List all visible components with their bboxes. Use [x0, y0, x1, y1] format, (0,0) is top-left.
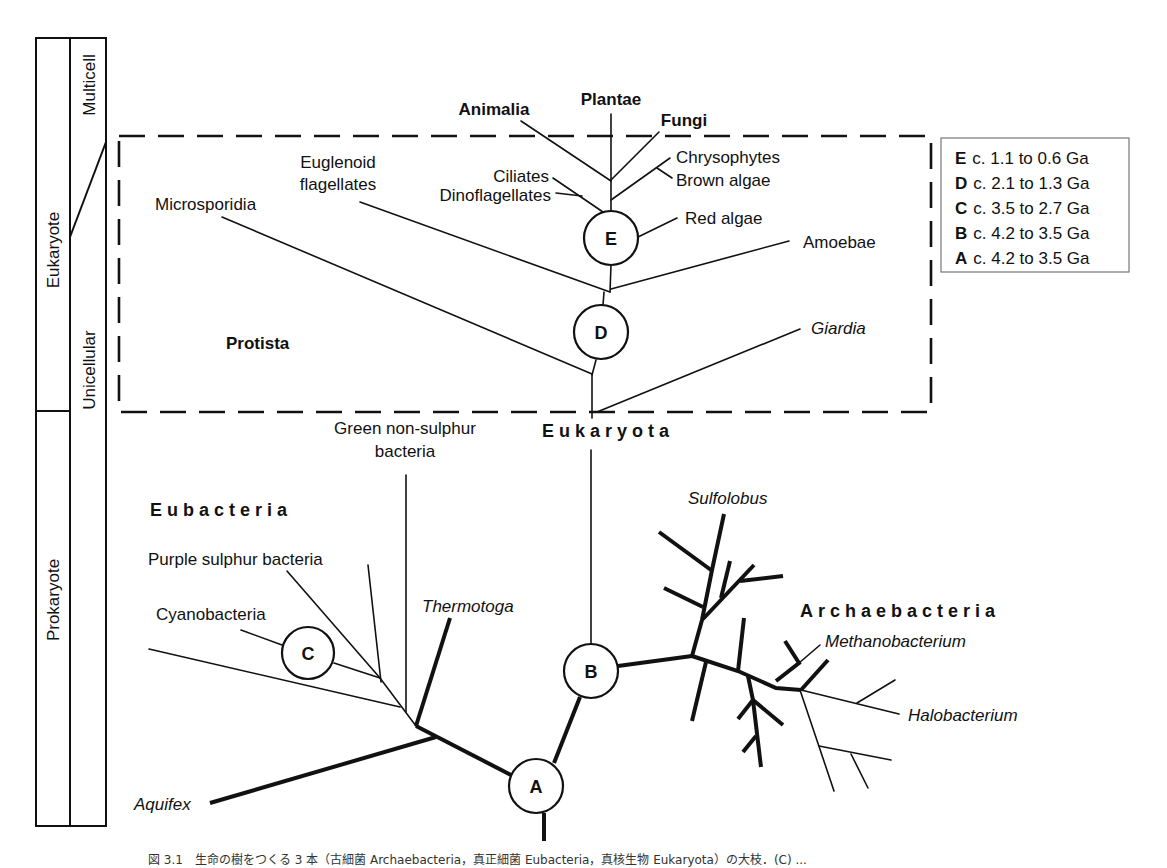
legend-item-e: Ec. 1.1 to 0.6 Ga	[955, 149, 1089, 168]
label-purple-sulphur: Purple sulphur bacteria	[148, 550, 323, 569]
timescale-column: Eukaryote Prokaryote Multicell Unicellul…	[36, 38, 106, 826]
node-b-label: B	[585, 662, 598, 682]
node-a-label: A	[530, 777, 543, 797]
label-red-algae: Red algae	[685, 209, 763, 228]
label-cyanobacteria: Cyanobacteria	[156, 605, 266, 624]
node-e: E	[584, 211, 638, 265]
label-aquifex: Aquifex	[133, 795, 191, 814]
legend-item-a: Ac. 4.2 to 3.5 Ga	[955, 249, 1090, 268]
label-animalia: Animalia	[459, 100, 530, 119]
label-fungi: Fungi	[661, 111, 707, 130]
label-chrysophytes: Chrysophytes	[676, 148, 780, 167]
label-archaebacteria: Archaebacteria	[800, 601, 1000, 621]
label-microsporidia: Microsporidia	[155, 195, 257, 214]
label-euglenoid-line1: Euglenoid	[300, 153, 376, 172]
node-e-label: E	[605, 229, 617, 249]
node-a: A	[509, 759, 563, 813]
label-protista: Protista	[226, 334, 290, 353]
label-eukaryota: Eukaryota	[542, 421, 674, 441]
label-plantae: Plantae	[581, 90, 641, 109]
label-sulfolobus: Sulfolobus	[688, 489, 768, 508]
node-c: C	[282, 627, 334, 679]
label-green-nonsulphur-line1: Green non-sulphur	[334, 419, 476, 438]
label-ciliates: Ciliates	[493, 167, 549, 186]
label-halobacterium: Halobacterium	[908, 706, 1018, 725]
label-thermotoga: Thermotoga	[422, 597, 514, 616]
prokaryote-period-label: Prokaryote	[44, 559, 63, 641]
archaebacteria-branches	[659, 514, 899, 791]
label-eubacteria: Eubacteria	[150, 500, 292, 520]
label-green-nonsulphur-line2: bacteria	[375, 442, 436, 461]
node-c-label: C	[302, 644, 315, 664]
eukaryote-period-label: Eukaryote	[44, 212, 63, 289]
label-methanobacterium: Methanobacterium	[825, 632, 966, 651]
unicellular-period-label: Unicellular	[80, 330, 99, 410]
age-legend: Ec. 1.1 to 0.6 Ga Dc. 2.1 to 1.3 Ga Cc. …	[941, 138, 1129, 272]
label-giardia: Giardia	[811, 319, 866, 338]
multicell-period-label: Multicell	[80, 54, 99, 115]
node-b: B	[564, 644, 618, 698]
label-amoebae: Amoebae	[803, 233, 876, 252]
legend-item-c: Cc. 3.5 to 2.7 Ga	[955, 199, 1090, 218]
label-brown-algae: Brown algae	[676, 171, 771, 190]
label-euglenoid-line2: flagellates	[300, 175, 377, 194]
node-d: D	[574, 305, 628, 359]
label-dinoflagellates: Dinoflagellates	[439, 186, 551, 205]
legend-item-d: Dc. 2.1 to 1.3 Ga	[955, 174, 1090, 193]
node-d-label: D	[595, 323, 608, 343]
figure-caption: 図 3.1 生命の樹をつくる 3 本（古細菌 Archaebacteria，真正…	[148, 850, 807, 867]
legend-item-b: Bc. 4.2 to 3.5 Ga	[955, 224, 1090, 243]
tree-of-life-diagram: Eukaryote Prokaryote Multicell Unicellul…	[0, 0, 1167, 868]
